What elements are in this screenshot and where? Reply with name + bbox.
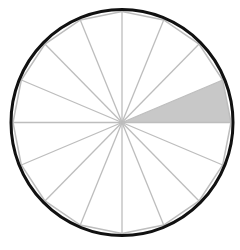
spokes-group [13, 12, 231, 234]
fraction-circle-diagram [0, 0, 240, 250]
